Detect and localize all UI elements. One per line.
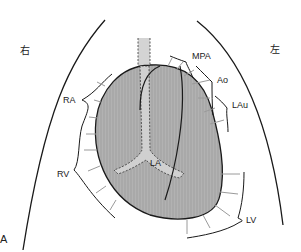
label-la: LA — [150, 159, 161, 168]
right-chest-wall — [23, 20, 105, 250]
label-lv: LV — [246, 216, 256, 225]
lau-contour — [215, 96, 228, 132]
right-side-label: 右 — [20, 46, 30, 56]
label-mpa: MPA — [192, 52, 211, 61]
left-side-label: 左 — [270, 45, 280, 55]
label-rv: RV — [57, 170, 69, 179]
label-lau: LAu — [232, 101, 248, 110]
trachea — [138, 38, 150, 68]
label-ra: RA — [63, 96, 76, 105]
label-ao: Ao — [217, 76, 228, 85]
heart-silhouette — [95, 65, 222, 219]
panel-label: A — [0, 234, 7, 245]
